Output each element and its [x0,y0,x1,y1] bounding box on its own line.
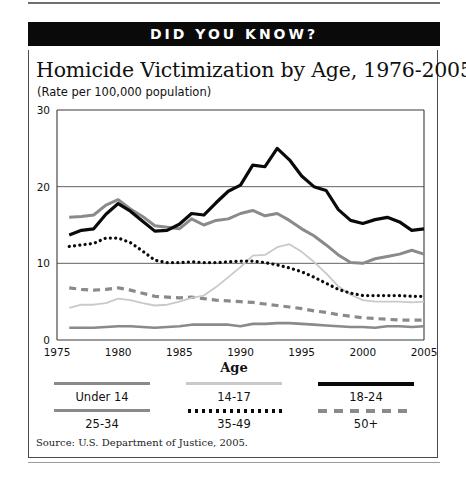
top-divider [28,2,440,4]
banner-label: DID YOU KNOW? [150,26,318,42]
legend-label-50-plus: 50+ [300,417,432,431]
legend-item-14-17: 14-17 [168,379,300,404]
legend-label-under-14: Under 14 [36,390,168,404]
legend-swatch-35-49 [168,406,300,415]
legend-row-1: Under 14 14-17 18-24 [36,379,432,404]
legend-item-50-plus: 50+ [300,406,432,431]
legend-label-25-34: 25-34 [36,417,168,431]
legend-swatch-18-24 [300,379,432,388]
chart-legend: Age Under 14 14-17 18-24 25-34 35-4 [36,360,432,430]
chart-subtitle: (Rate per 100,000 population) [37,85,437,99]
legend-item-35-49: 35-49 [168,406,300,431]
legend-label-35-49: 35-49 [168,417,300,431]
legend-label-14-17: 14-17 [168,390,300,404]
legend-title: Age [36,360,432,375]
legend-swatch-25-34 [36,406,168,415]
did-you-know-banner: DID YOU KNOW? [28,22,440,46]
legend-row-2: 25-34 35-49 50+ [36,406,432,431]
legend-label-18-24: 18-24 [300,390,432,404]
legend-item-18-24: 18-24 [300,379,432,404]
bottom-divider [28,462,440,463]
source-note: Source: U.S. Department of Justice, 2005… [36,437,248,448]
legend-swatch-14-17 [168,379,300,388]
legend-item-25-34: 25-34 [36,406,168,431]
legend-swatch-50-plus [300,406,432,415]
chart-title: Homicide Victimization by Age, 1976-2005 [36,58,436,82]
legend-swatch-under-14 [36,379,168,388]
did-you-know-chart-figure: DID YOU KNOW? Homicide Victimization by … [0,0,466,485]
legend-item-under-14: Under 14 [36,379,168,404]
